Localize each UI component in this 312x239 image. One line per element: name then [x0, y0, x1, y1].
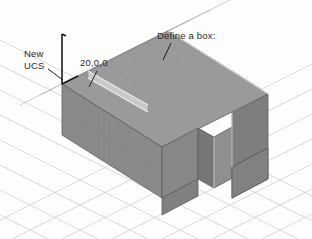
annotation-coordinate: 20,0,0: [80, 57, 108, 68]
define-box-leader-line: [163, 43, 171, 60]
cad-illustration-canvas: New UCS 20,0,0 Define a box:: [0, 0, 312, 239]
annotation-leaders: [0, 0, 312, 239]
annotation-new-ucs-line1: New: [24, 48, 45, 60]
new-ucs-leader-line: [48, 69, 63, 80]
ucs-axis-icon: [62, 34, 78, 84]
coordinate-leader-line: [89, 71, 97, 87]
annotation-new-ucs: New UCS: [24, 48, 45, 72]
annotation-new-ucs-line2: UCS: [24, 60, 45, 72]
annotation-define-box: Define a box:: [157, 30, 216, 41]
